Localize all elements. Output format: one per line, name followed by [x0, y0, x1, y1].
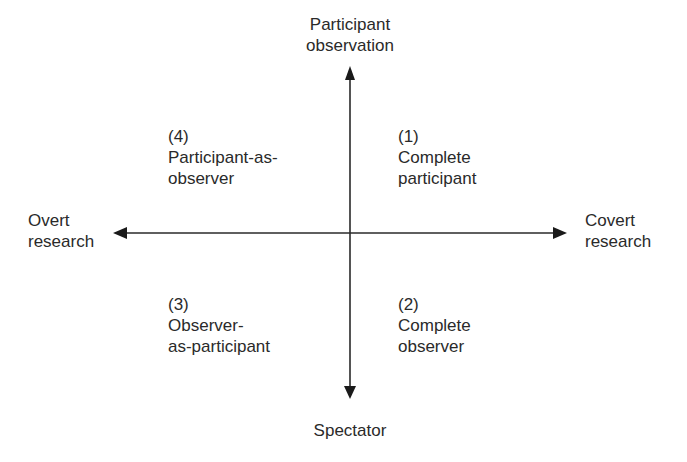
arrow-down-icon — [344, 386, 356, 399]
axis-label-bottom: Spectator — [290, 420, 410, 441]
quadrant-1-line2: participant — [398, 168, 476, 189]
quadrant-2: (2) Complete observer — [398, 294, 471, 357]
quadrant-4: (4) Participant-as- observer — [168, 126, 278, 189]
quadrant-4-line2: observer — [168, 168, 278, 189]
arrow-right-icon — [553, 227, 567, 239]
quadrant-4-number: (4) — [168, 126, 278, 147]
quadrant-3-line2: as-participant — [168, 336, 270, 357]
axis-label-top-line1: Participant — [290, 14, 410, 35]
quadrant-2-number: (2) — [398, 294, 471, 315]
quadrant-1-number: (1) — [398, 126, 476, 147]
axis-label-right-line2: research — [585, 231, 651, 252]
quadrant-3: (3) Observer- as-participant — [168, 294, 270, 357]
quadrant-2-line2: observer — [398, 336, 471, 357]
axis-label-left-line2: research — [28, 231, 94, 252]
axis-label-bottom-line1: Spectator — [290, 420, 410, 441]
axis-label-top-line2: observation — [290, 35, 410, 56]
axis-label-top: Participant observation — [290, 14, 410, 56]
quadrant-3-number: (3) — [168, 294, 270, 315]
arrow-up-icon — [345, 66, 355, 80]
axis-label-right-line1: Covert — [585, 210, 651, 231]
quadrant-2-line1: Complete — [398, 315, 471, 336]
quadrant-4-line1: Participant-as- — [168, 147, 278, 168]
axis-label-right: Covert research — [585, 210, 651, 252]
horizontal-axis — [113, 227, 567, 239]
quadrant-1: (1) Complete participant — [398, 126, 476, 189]
axis-label-left: Overt research — [28, 210, 94, 252]
axis-label-left-line1: Overt — [28, 210, 94, 231]
arrow-left-icon — [113, 227, 127, 239]
quadrant-3-line1: Observer- — [168, 315, 270, 336]
axes-diagram — [0, 0, 687, 462]
quadrant-1-line1: Complete — [398, 147, 476, 168]
